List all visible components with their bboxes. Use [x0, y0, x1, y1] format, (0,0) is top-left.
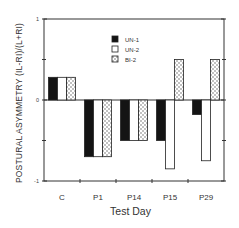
bar-bi-2-c — [67, 77, 76, 100]
x-tick-label: P14 — [127, 193, 142, 202]
legend-swatch — [112, 46, 118, 52]
bar-un-1-c — [49, 77, 58, 100]
bar-un-1-p29 — [193, 100, 202, 115]
bar-bi-2-p29 — [211, 60, 220, 101]
bar-un-1-p14 — [121, 100, 130, 141]
legend-swatch — [112, 56, 118, 62]
bar-un-2-c — [58, 77, 67, 100]
bar-bi-2-p15 — [175, 60, 184, 101]
x-tick-label: P15 — [163, 193, 178, 202]
legend-label: BI-2 — [125, 57, 137, 63]
x-axis-label: Test Day — [0, 205, 239, 217]
bar-un-1-p15 — [157, 100, 166, 141]
bar-bi-2-p1 — [103, 100, 112, 157]
y-tick-label: 1 — [36, 16, 39, 22]
y-axis-label: POSTURAL ASYMMETRY (IL-RI)/(L+RI) — [14, 18, 24, 188]
bar-bi-2-p14 — [139, 100, 148, 141]
legend-label: UN-2 — [125, 47, 140, 53]
bar-un-2-p14 — [130, 100, 139, 141]
legend-label: UN-1 — [125, 37, 140, 43]
x-tick-label: C — [59, 193, 65, 202]
bar-un-2-p15 — [166, 100, 175, 169]
y-tick-label: 0 — [36, 97, 39, 103]
bar-un-2-p29 — [202, 100, 211, 161]
x-tick-label: P29 — [199, 193, 214, 202]
bar-un-2-p1 — [94, 100, 103, 157]
bars — [49, 60, 220, 169]
bar-chart: UN-1UN-2BI-2 -101CP1P14P15P29 — [0, 0, 239, 228]
legend-swatch — [112, 36, 118, 42]
x-tick-label: P1 — [93, 193, 103, 202]
bar-un-1-p1 — [85, 100, 94, 157]
y-tick-label: -1 — [34, 178, 39, 184]
legend: UN-1UN-2BI-2 — [112, 36, 140, 63]
